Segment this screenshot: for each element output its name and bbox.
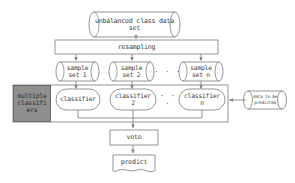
multiple-classifiers-group-box: [13, 85, 51, 122]
classifier-2-shape: [110, 89, 156, 110]
resampling-shape: [55, 40, 218, 54]
vote-shape: [110, 130, 158, 145]
flowchart-diagram: multiple classifi ers unbalanced class d…: [0, 0, 295, 183]
predict-shape: [113, 155, 155, 172]
classifier-n-shape: [179, 89, 225, 110]
sample-set-n-shape: [179, 62, 223, 81]
data-source-shape: [89, 12, 180, 37]
sample-set-2-shape: [109, 62, 154, 81]
classifier-1-shape: [56, 89, 100, 110]
predict-input-shape: [244, 91, 287, 109]
sample-set-1-shape: [56, 62, 99, 81]
